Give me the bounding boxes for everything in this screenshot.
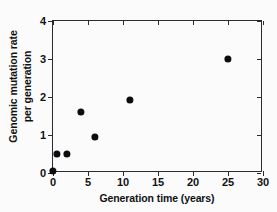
y-tick-right-3 bbox=[257, 59, 261, 60]
y-tick-right-1 bbox=[257, 135, 261, 136]
y-axis-title-line2: per generation bbox=[20, 30, 34, 142]
y-tick-right-4 bbox=[257, 21, 261, 22]
x-tick-top-0 bbox=[53, 21, 54, 25]
x-tick-label-10: 10 bbox=[117, 176, 129, 188]
scatter-chart-figure: Genomic mutation rate per generation 012… bbox=[0, 0, 277, 212]
data-point bbox=[91, 133, 98, 140]
x-tick-label-15: 15 bbox=[152, 176, 164, 188]
x-tick-top-30 bbox=[263, 21, 264, 25]
plot-area: 01234 051015202530 bbox=[52, 20, 262, 172]
data-point bbox=[126, 96, 133, 103]
x-tick-label-5: 5 bbox=[85, 176, 91, 188]
y-tick-3 bbox=[48, 59, 53, 60]
data-point bbox=[77, 109, 84, 116]
x-tick-top-10 bbox=[123, 21, 124, 25]
y-tick-label-1: 1 bbox=[40, 129, 46, 141]
y-axis-title: Genomic mutation rate per generation bbox=[0, 0, 40, 172]
y-tick-right-2 bbox=[257, 97, 261, 98]
data-point bbox=[224, 55, 231, 62]
x-tick-top-25 bbox=[228, 21, 229, 25]
y-axis-title-line1: Genomic mutation rate bbox=[7, 30, 19, 142]
x-tick-label-30: 30 bbox=[257, 176, 269, 188]
y-tick-label-2: 2 bbox=[40, 91, 46, 103]
x-axis-title: Generation time (years) bbox=[52, 192, 262, 204]
data-point bbox=[63, 150, 70, 157]
y-tick-label-3: 3 bbox=[40, 53, 46, 65]
x-tick-label-25: 25 bbox=[222, 176, 234, 188]
data-point bbox=[53, 150, 60, 157]
y-tick-2 bbox=[48, 97, 53, 98]
y-tick-1 bbox=[48, 135, 53, 136]
y-tick-right-0 bbox=[257, 173, 261, 174]
x-tick-label-20: 20 bbox=[187, 176, 199, 188]
x-tick-label-0: 0 bbox=[50, 176, 56, 188]
data-point bbox=[49, 168, 56, 175]
x-tick-top-5 bbox=[88, 21, 89, 25]
y-tick-label-0: 0 bbox=[40, 167, 46, 179]
x-tick-top-15 bbox=[158, 21, 159, 25]
x-tick-top-20 bbox=[193, 21, 194, 25]
y-tick-label-4: 4 bbox=[40, 15, 46, 27]
